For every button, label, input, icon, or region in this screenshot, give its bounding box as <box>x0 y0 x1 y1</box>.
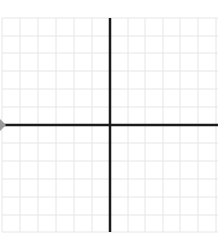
axes <box>0 18 218 232</box>
coordinate-plane <box>0 0 218 239</box>
x-axis-left-arrow-icon <box>0 119 6 131</box>
